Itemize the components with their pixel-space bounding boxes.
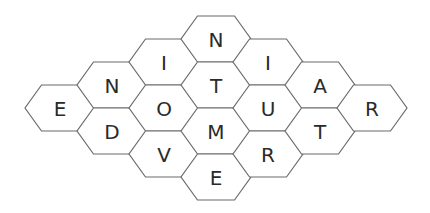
hex-letter: N — [105, 74, 120, 98]
hex-letter-board: ENDIOVNTMEIURATR — [0, 0, 430, 213]
hex-letter: I — [161, 51, 167, 75]
hex-letter: R — [261, 143, 275, 167]
hex-letter: I — [265, 51, 271, 75]
hex-letter: U — [261, 97, 276, 121]
hex-letter: V — [157, 143, 171, 167]
hex-grid: ENDIOVNTMEIURATR — [0, 0, 430, 213]
hex-letter: E — [54, 97, 67, 121]
hex-letter: T — [209, 74, 223, 98]
hex-letter: R — [365, 97, 379, 121]
hex-letter: M — [207, 120, 224, 144]
hex-letter: E — [210, 166, 223, 190]
hex-letter: O — [156, 97, 172, 121]
hex-letter: A — [313, 74, 327, 98]
hex-letter: T — [313, 120, 327, 144]
hex-letter: N — [209, 28, 224, 52]
hex-letter: D — [104, 120, 119, 144]
